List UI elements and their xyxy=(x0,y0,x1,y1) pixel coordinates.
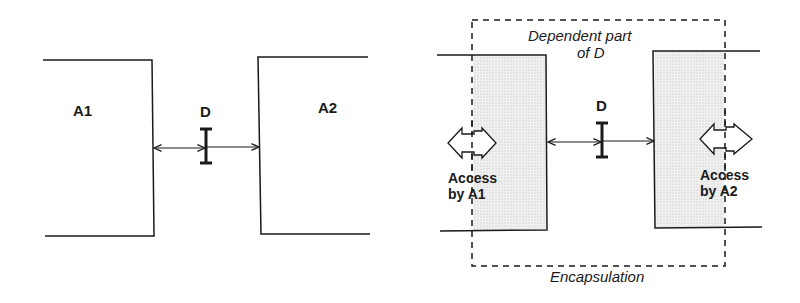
box-a1-label: A1 xyxy=(73,102,92,119)
dependency-label: D xyxy=(200,103,211,120)
left-diagram xyxy=(43,57,370,236)
access-a1-label-line2: by A1 xyxy=(448,186,486,202)
diagram-canvas xyxy=(0,0,800,303)
dependency-label-right: D xyxy=(596,97,607,114)
dependent-part-label-line2: of D xyxy=(577,44,605,61)
box-a2 xyxy=(258,57,370,234)
encapsulation-label: Encapsulation xyxy=(550,268,644,285)
access-a1-label-line1: Access xyxy=(448,170,497,186)
box-a1 xyxy=(43,60,154,236)
box-a2-label: A2 xyxy=(318,99,337,116)
dependent-part-label-line1: Dependent part xyxy=(528,27,631,44)
access-a2-label-line1: Access xyxy=(700,167,749,183)
access-a2-label-line2: by A2 xyxy=(700,183,738,199)
dependency-ibeam-icon-right xyxy=(596,123,608,157)
dependency-ibeam-icon xyxy=(200,129,212,163)
